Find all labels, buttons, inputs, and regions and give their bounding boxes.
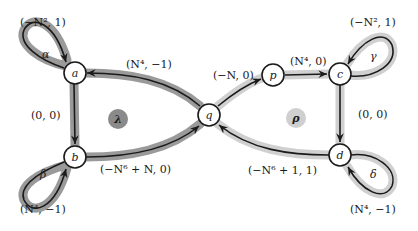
gamma-weight: (−N², 1) — [350, 16, 396, 29]
delta-label: δ — [370, 168, 377, 181]
node-d: d — [329, 144, 351, 166]
edge-p-to-c — [285, 74, 327, 75]
delta-weight: (N⁴, −1) — [350, 203, 396, 216]
node-q: q — [198, 104, 220, 126]
edge-p-to-c-weight: (N⁴, 0) — [290, 55, 327, 68]
node-p: p — [262, 64, 284, 86]
edge-a-to-b-weight: (0, 0) — [31, 109, 61, 122]
svg-text:c: c — [337, 68, 343, 81]
edge-d-to-q-weight: (−N⁶ + 1, 1) — [248, 164, 317, 177]
edge-q-to-p-weight: (−N, 0) — [213, 69, 254, 82]
beta-weight: (N⁴, −1) — [20, 203, 66, 216]
node-b: b — [64, 146, 86, 168]
gamma-label: γ — [370, 50, 377, 63]
edge-a-to-b — [74, 84, 75, 144]
lambda-label: λ — [113, 113, 122, 126]
alpha-label: α — [42, 48, 50, 61]
edge-c-to-d-weight: (0, 0) — [358, 108, 388, 121]
edge-b-to-q-weight: (−N⁶ + N, 0) — [100, 163, 171, 176]
svg-text:a: a — [72, 67, 79, 80]
alpha-weight: (−N², 1) — [20, 16, 66, 29]
node-c: c — [329, 63, 351, 85]
rho-label: ρ — [291, 112, 300, 125]
beta-label: β — [39, 168, 46, 181]
node-a: a — [64, 62, 86, 84]
automaton-diagram: λ ρ a b q p c d α β γ δ (−N², 1) (N⁴, −1… — [0, 0, 418, 231]
svg-text:p: p — [269, 69, 276, 82]
svg-text:b: b — [71, 151, 78, 164]
edge-q-to-a-weight: (N⁴, −1) — [126, 58, 172, 71]
svg-text:d: d — [336, 149, 343, 162]
svg-text:q: q — [205, 109, 212, 122]
